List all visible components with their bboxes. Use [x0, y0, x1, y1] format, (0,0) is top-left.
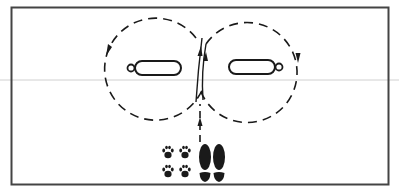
arrow-up-crossing-left-icon: [198, 46, 203, 56]
arrow-right-loop-icon: [296, 53, 301, 63]
handler-shoe-prints: [199, 144, 225, 182]
left-shoe-print-icon: [199, 144, 211, 182]
left-obstacle: [128, 61, 182, 75]
right-obstacle: [229, 60, 283, 74]
paw-print-icon: [179, 165, 190, 178]
arrow-left-loop-icon: [106, 44, 112, 56]
right-shoe-print-icon: [213, 144, 225, 182]
right-loop-path: [201, 23, 297, 123]
right-obstacle-loop: [276, 64, 283, 71]
dog-paw-prints: [162, 146, 190, 178]
paw-print-icon: [179, 146, 190, 159]
paw-print-icon: [162, 146, 173, 159]
left-obstacle-loop: [128, 65, 135, 72]
crossing-strand-b: [202, 44, 206, 100]
paw-print-icon: [162, 165, 173, 178]
arrow-up-approach-icon: [198, 117, 203, 126]
left-loop-path: [105, 18, 203, 120]
diagram-canvas: [0, 0, 399, 193]
